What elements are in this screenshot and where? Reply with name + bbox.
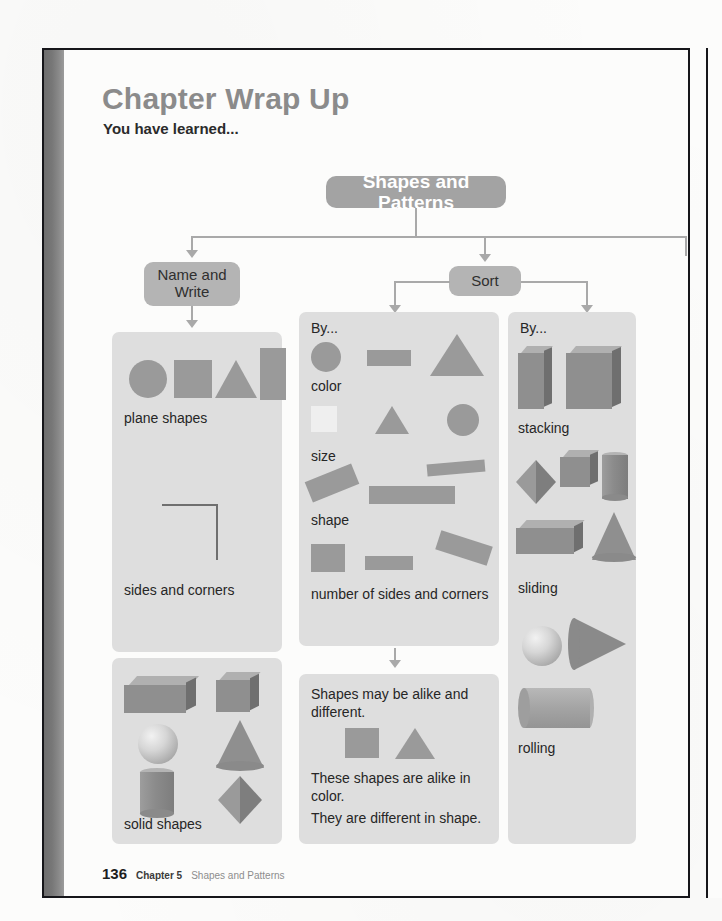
- page-content: Chapter Wrap Up You have learned... Shap…: [64, 50, 688, 896]
- connector-drop-right-edge: [685, 236, 687, 256]
- shape-circle-size: [447, 404, 479, 436]
- shape-tilted-rectangle-shape: [305, 463, 360, 502]
- label-plane-shapes: plane shapes: [124, 410, 207, 427]
- connector-drop-sort: [484, 236, 486, 256]
- corner-drawing-horizontal: [162, 504, 218, 506]
- facing-page-sliver: [706, 48, 722, 898]
- alike-text-line3: These shapes are alike in: [311, 770, 497, 787]
- footer-chapter-title: Shapes and Patterns: [191, 870, 284, 881]
- shape-sphere-rolling: [522, 626, 562, 666]
- panel-solid-shapes: solid shapes: [112, 658, 282, 844]
- connector-horizontal-bus: [192, 236, 687, 238]
- page-title: Chapter Wrap Up: [102, 82, 349, 116]
- label-by-attributes: By...: [311, 320, 338, 336]
- arrow-down-name: [186, 250, 198, 258]
- label-number-of-sides: number of sides and corners: [311, 586, 491, 603]
- panel-plane-and-sides: plane shapes sides and corners: [112, 332, 282, 652]
- shape-rectangle-color: [367, 350, 411, 366]
- label-shape: shape: [311, 512, 349, 529]
- label-solid-shapes: solid shapes: [124, 816, 202, 833]
- alike-text-line5: They are different in shape.: [311, 810, 497, 827]
- shape-rectangle-shape: [369, 486, 455, 504]
- shape-tilted-rectangle-sides: [435, 530, 493, 566]
- panel-sort-by-attributes: By... color size shape number of sides a…: [299, 312, 499, 646]
- alike-text-line1: Shapes may be alike and: [311, 686, 491, 703]
- shape-square-sides: [311, 544, 345, 572]
- shape-triangle-alike: [395, 728, 435, 759]
- label-size: size: [311, 448, 336, 465]
- shape-sphere: [138, 724, 178, 764]
- connector-sort-right-drop: [586, 281, 588, 307]
- shape-circle-color: [311, 342, 341, 372]
- label-color: color: [311, 378, 341, 395]
- shape-small-rectangle-sides: [365, 556, 413, 570]
- flow-node-name-and-write: Name and Write: [144, 262, 240, 306]
- connector-sort-right: [521, 281, 587, 283]
- shape-triangle: [215, 360, 257, 398]
- flow-node-sort: Sort: [449, 266, 521, 296]
- shape-square-alike: [345, 728, 379, 758]
- page-footer: 136 Chapter 5 Shapes and Patterns: [102, 865, 285, 882]
- label-stacking: stacking: [518, 420, 569, 437]
- shape-thin-rectangle-shape: [427, 459, 486, 476]
- label-by-motion: By...: [520, 320, 547, 336]
- connector-root-stem: [415, 208, 417, 236]
- textbook-page: Chapter Wrap Up You have learned... Shap…: [42, 48, 690, 898]
- panel-alike-and-different: Shapes may be alike and different. These…: [299, 674, 499, 844]
- label-sliding: sliding: [518, 580, 558, 597]
- flow-node-root: Shapes and Patterns: [326, 176, 506, 208]
- arrow-down-sort: [479, 254, 491, 262]
- arrow-down-alike-box: [389, 660, 401, 668]
- book-spine: [44, 50, 64, 896]
- panel-sort-by-motion: By... stacking: [508, 312, 636, 844]
- alike-text-line4: color.: [311, 788, 497, 805]
- shape-square: [174, 360, 212, 398]
- label-rolling: rolling: [518, 740, 555, 757]
- footer-page-number: 136: [102, 865, 127, 882]
- shape-circle: [129, 360, 167, 398]
- alike-text-line2: different.: [311, 704, 491, 721]
- connector-sort-left-drop: [394, 281, 396, 307]
- shape-rectangle: [260, 348, 286, 400]
- corner-drawing-vertical: [216, 504, 218, 560]
- arrow-down-name-panel: [186, 320, 198, 328]
- node-label-name-and-write: Name and Write: [157, 267, 226, 301]
- shape-small-triangle-size: [375, 406, 409, 434]
- shape-cone-base: [216, 761, 264, 771]
- shape-cone-base-sliding: [592, 553, 636, 562]
- footer-chapter: Chapter 5: [136, 870, 182, 881]
- connector-sort-left: [394, 281, 450, 283]
- label-sides-and-corners: sides and corners: [124, 582, 235, 599]
- shape-light-square-size: [311, 406, 337, 432]
- shape-triangle-color: [430, 334, 484, 376]
- page-subtitle: You have learned...: [103, 120, 239, 137]
